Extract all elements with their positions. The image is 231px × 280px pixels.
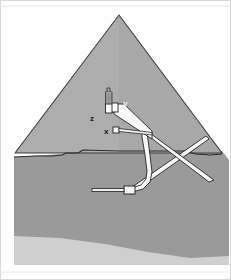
air-shaft-z: [106, 88, 113, 113]
label-z: z: [90, 114, 94, 123]
label-x: x: [104, 127, 109, 136]
pyramid-diagram-figure: z y x: [0, 0, 231, 280]
pyramid-cross-section-svg: z y x: [0, 0, 231, 280]
label-y: y: [123, 99, 128, 108]
